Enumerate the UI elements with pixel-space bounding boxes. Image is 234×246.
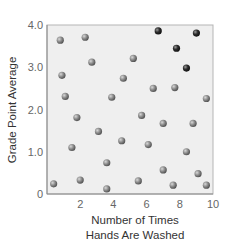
y-tick-label: 3.0: [28, 61, 43, 73]
highlighted-data-point: [155, 27, 162, 34]
data-point: [108, 94, 115, 101]
data-point: [171, 84, 178, 91]
highlighted-data-point: [193, 29, 200, 36]
data-point: [183, 148, 190, 155]
data-point: [145, 141, 152, 148]
x-tick-labels: 246810: [77, 198, 219, 210]
data-point: [170, 182, 177, 189]
data-point: [82, 34, 89, 41]
y-axis-label: Grade Point Average: [6, 57, 18, 164]
data-point: [103, 159, 110, 166]
y-tick-label: 0: [37, 188, 43, 200]
data-point: [57, 37, 64, 44]
y-tick-label: 1.0: [28, 146, 43, 158]
data-point: [150, 85, 157, 92]
y-tick-labels: 01.02.03.04.0: [28, 19, 43, 200]
data-point: [77, 176, 84, 183]
data-point: [50, 180, 57, 187]
highlighted-data-point: [183, 64, 190, 71]
data-point: [160, 120, 167, 127]
x-tick-label: 4: [110, 198, 116, 210]
data-point: [194, 170, 201, 177]
scatter-chart: 246810 01.02.03.04.0 Grade Point Average…: [0, 0, 234, 246]
data-point: [120, 75, 127, 82]
data-point: [95, 128, 102, 135]
data-point: [103, 185, 110, 192]
data-point: [130, 55, 137, 62]
plot-area: [47, 25, 213, 194]
y-tick-label: 4.0: [28, 19, 43, 31]
data-point: [189, 120, 196, 127]
data-point: [68, 144, 75, 151]
data-point: [58, 72, 65, 79]
highlighted-data-point: [173, 45, 180, 52]
data-point: [62, 93, 69, 100]
data-point: [88, 59, 95, 66]
y-tick-label: 2.0: [28, 104, 43, 116]
x-axis-label-line1: Number of Times: [91, 214, 179, 226]
x-tick-label: 6: [144, 198, 150, 210]
x-axis-label-line2: Hands Are Washed: [86, 229, 185, 241]
data-point: [138, 112, 145, 119]
data-point: [203, 95, 210, 102]
data-point: [118, 137, 125, 144]
x-tick-label: 2: [77, 198, 83, 210]
x-tick-label: 8: [177, 198, 183, 210]
data-point: [135, 177, 142, 184]
data-point: [203, 182, 210, 189]
data-point: [160, 166, 167, 173]
data-point: [73, 114, 80, 121]
x-tick-label: 10: [207, 198, 219, 210]
